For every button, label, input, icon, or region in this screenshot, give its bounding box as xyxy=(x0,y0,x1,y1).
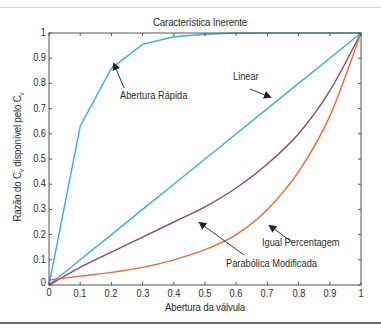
arrow-parabolica-modificada xyxy=(200,223,244,255)
arrow-linear xyxy=(250,89,270,97)
x-tick-label: 0.8 xyxy=(290,287,308,299)
y-tick-label: 1 xyxy=(25,26,46,38)
arrow-abertura-rapida xyxy=(114,64,124,88)
annotation-parabolica-modificada: Parabólica Modificada xyxy=(226,257,317,269)
annotation-igual-percentagem: Igual Percentagem xyxy=(262,236,340,248)
y-tick-label: 0.9 xyxy=(25,51,46,63)
x-tick-label: 0.9 xyxy=(321,287,339,299)
x-tick-label: 0.6 xyxy=(227,287,245,299)
y-tick-label: 0.2 xyxy=(25,228,46,240)
x-tick-label: 1 xyxy=(352,287,370,299)
x-tick-label: 0.2 xyxy=(103,287,121,299)
y-tick-label: 0.6 xyxy=(25,127,46,139)
annotation-abertura-rapida: Abertura Rápida xyxy=(120,89,187,101)
plot-area xyxy=(0,0,381,329)
x-tick-label: 0.7 xyxy=(259,287,277,299)
x-tick-label: 0.3 xyxy=(134,287,152,299)
bottom-divider xyxy=(0,322,381,324)
y-tick-label: 0.3 xyxy=(25,202,46,214)
y-tick-label: 0.8 xyxy=(25,76,46,88)
x-tick-label: 0.4 xyxy=(165,287,183,299)
annotation-linear: Linear xyxy=(233,70,259,82)
y-tick-label: 0.4 xyxy=(25,177,46,189)
y-tick-label: 0.7 xyxy=(25,102,46,114)
x-tick-label: 0.5 xyxy=(196,287,214,299)
y-tick-label: 0.1 xyxy=(25,253,46,265)
y-tick-label: 0 xyxy=(25,276,46,288)
y-tick-label: 0.5 xyxy=(25,152,46,164)
x-tick-label: 0.1 xyxy=(71,287,89,299)
x-axis-label: Abertura da válvula xyxy=(139,301,271,313)
